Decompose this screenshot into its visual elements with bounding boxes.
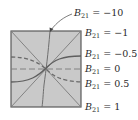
label-b21-zero: B21 = 0 xyxy=(85,64,120,76)
pointer-arrow xyxy=(51,14,72,30)
label-b21-neg10: B21 = −10 xyxy=(74,8,123,20)
label-b21-neg0.5: B21 = −0.5 xyxy=(85,49,137,61)
label-b21-pos1: B21 = 1 xyxy=(85,102,120,114)
label-b21-pos0.5: B21 = 0.5 xyxy=(85,79,129,91)
label-b21-neg1: B21 = −1 xyxy=(85,28,128,40)
